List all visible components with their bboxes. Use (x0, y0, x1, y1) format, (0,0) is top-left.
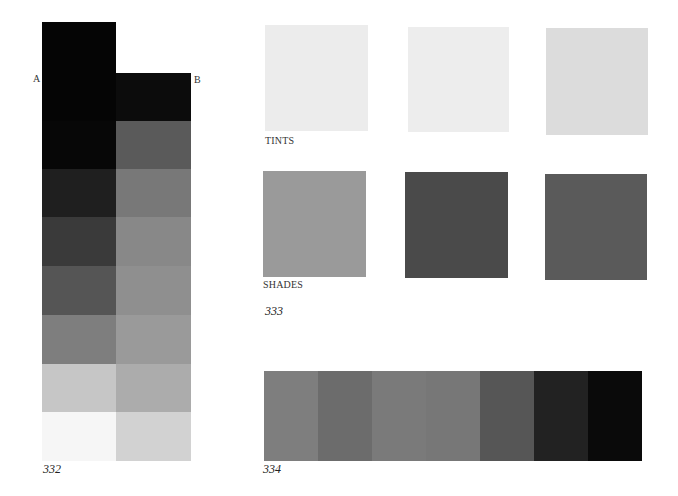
strip-cell-3 (372, 371, 426, 461)
tint-swatch-1 (265, 25, 368, 131)
figure-number-333: 333 (265, 304, 283, 319)
column-b-cell-5 (116, 266, 191, 315)
column-a-cell-3 (42, 169, 116, 217)
figure-number-332: 332 (43, 462, 61, 477)
column-b-cell-4 (116, 217, 191, 266)
column-a-top (42, 22, 116, 73)
strip-cell-2 (318, 371, 372, 461)
column-b-label: B (194, 74, 201, 85)
column-a-cell-8 (42, 412, 116, 461)
strip-cell-6 (534, 371, 588, 461)
shades-label: SHADES (263, 279, 303, 290)
strip-cell-5 (480, 371, 534, 461)
tint-swatch-3 (546, 28, 648, 135)
tints-label: TINTS (265, 135, 294, 146)
strip-cell-7 (588, 371, 642, 461)
tint-swatch-2 (408, 27, 509, 132)
column-a-cell-5 (42, 266, 116, 315)
column-b-cell-8 (116, 412, 191, 461)
column-b-cell-2 (116, 121, 191, 169)
gray-strip (264, 371, 642, 461)
column-a-cell-2 (42, 121, 116, 169)
shade-swatch-1 (263, 171, 366, 277)
column-a-cell-1 (42, 73, 116, 121)
column-a-cell-7 (42, 364, 116, 412)
column-a-cell-6 (42, 315, 116, 364)
column-b-cell-1 (116, 73, 191, 121)
shade-swatch-3 (545, 174, 647, 280)
shade-swatch-2 (405, 172, 508, 278)
figure-number-334: 334 (263, 462, 281, 477)
column-b-cell-6 (116, 315, 191, 364)
column-a-label: A (33, 73, 40, 84)
strip-cell-1 (264, 371, 318, 461)
column-b-cell-3 (116, 169, 191, 217)
column-a-cell-4 (42, 217, 116, 266)
column-b-cell-7 (116, 364, 191, 412)
strip-cell-4 (426, 371, 480, 461)
